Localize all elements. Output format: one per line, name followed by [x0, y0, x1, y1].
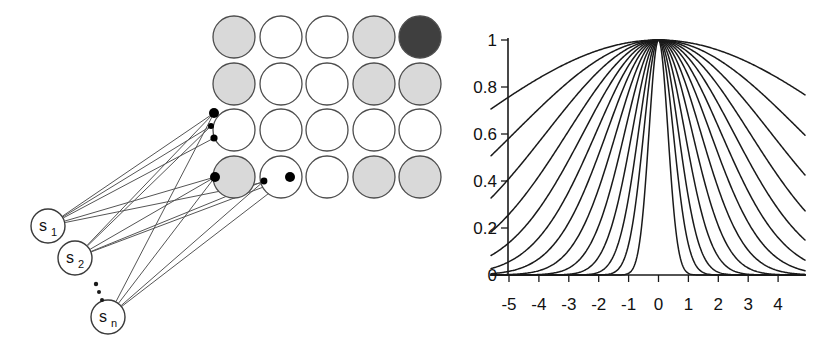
- unit-grid: [213, 16, 441, 198]
- y-tick-label: 0: [488, 266, 497, 285]
- grid-unit-r1c3[interactable]: [306, 16, 348, 58]
- y-tick-label: 0.8: [473, 78, 497, 97]
- grid-unit-r3c4[interactable]: [353, 109, 395, 151]
- connection-edge: [90, 177, 215, 249]
- connection-edges: [62, 113, 290, 306]
- grid-unit-r2c4[interactable]: [353, 63, 395, 105]
- network-diagram-panel: s1s2sn: [0, 0, 450, 347]
- ellipsis-dot: [97, 290, 101, 294]
- curve-series-group: [491, 40, 805, 275]
- grid-unit-r4c3[interactable]: [306, 156, 348, 198]
- connection-edge: [62, 113, 214, 216]
- grid-unit-r1c1[interactable]: [213, 16, 255, 58]
- y-tick-label: 1: [488, 31, 497, 50]
- network-diagram-svg: s1s2sn: [0, 0, 450, 347]
- gaussian-curves-chart: -5-4-3-2-10123400.20.40.60.81: [440, 0, 831, 347]
- source-node-label: s: [66, 249, 74, 266]
- x-tick-label: -4: [531, 295, 546, 314]
- terminal-r4c2-left[interactable]: [261, 178, 268, 185]
- grid-unit-r3c5[interactable]: [399, 109, 441, 151]
- connection-edge: [87, 113, 214, 245]
- grid-unit-r2c3[interactable]: [306, 63, 348, 105]
- source-node-sn[interactable]: sn: [91, 300, 125, 334]
- x-tick-label: 2: [714, 295, 723, 314]
- source-node-subscript: 2: [78, 258, 84, 270]
- source-node-circle: [31, 209, 65, 243]
- x-tick-label: -3: [561, 295, 576, 314]
- grid-unit-r3c2[interactable]: [260, 109, 302, 151]
- grid-unit-r3c3[interactable]: [306, 109, 348, 151]
- x-tick-label: -2: [591, 295, 606, 314]
- source-nodes: s1s2sn: [31, 209, 125, 334]
- source-node-s2[interactable]: s2: [58, 241, 92, 275]
- grid-unit-r3c1[interactable]: [213, 109, 255, 151]
- grid-unit-r2c5[interactable]: [399, 63, 441, 105]
- terminal-r3c1-low[interactable]: [210, 134, 217, 141]
- grid-unit-r4c5[interactable]: [399, 156, 441, 198]
- grid-unit-r1c4[interactable]: [353, 16, 395, 58]
- y-tick-label: 0.2: [473, 219, 497, 238]
- y-tick-label: 0.6: [473, 125, 497, 144]
- connection-edge: [91, 177, 290, 252]
- axes: [506, 38, 805, 275]
- curve-sigma-5.30: [491, 40, 805, 198]
- source-node-label: s: [39, 217, 47, 234]
- grid-unit-r4c2[interactable]: [260, 156, 302, 198]
- source-node-circle: [91, 300, 125, 334]
- grid-unit-r4c4[interactable]: [353, 156, 395, 198]
- grid-unit-r1c2[interactable]: [260, 16, 302, 58]
- vertical-ellipsis: [94, 282, 104, 302]
- x-tick-label: 1: [684, 295, 693, 314]
- grid-unit-r1c5[interactable]: [399, 16, 441, 58]
- source-node-subscript: n: [111, 317, 117, 329]
- y-tick-label: 0.4: [473, 172, 497, 191]
- terminal-r4c2-right[interactable]: [285, 172, 295, 182]
- connection-edge: [121, 181, 264, 306]
- connection-edge: [119, 177, 215, 303]
- grid-unit-r2c1[interactable]: [213, 63, 255, 105]
- terminal-r3c1-top[interactable]: [209, 108, 219, 118]
- terminal-r3c1-mid[interactable]: [208, 123, 214, 129]
- source-node-circle: [58, 241, 92, 275]
- source-node-s1[interactable]: s1: [31, 209, 65, 243]
- x-axis-ticks: -5-4-3-2-101234: [501, 275, 782, 314]
- x-tick-label: 0: [654, 295, 663, 314]
- connection-edge: [63, 138, 214, 218]
- ellipsis-dot: [100, 298, 104, 302]
- figure-container: s1s2sn -5-4-3-2-10123400.20.40.60.81: [0, 0, 831, 347]
- grid-unit-r2c2[interactable]: [260, 63, 302, 105]
- terminal-r4c1-left[interactable]: [210, 172, 220, 182]
- x-tick-label: -5: [501, 295, 516, 314]
- x-tick-label: 3: [743, 295, 752, 314]
- source-node-subscript: 1: [51, 226, 57, 238]
- gaussian-curves-panel: -5-4-3-2-10123400.20.40.60.81: [440, 0, 831, 347]
- source-node-label: s: [99, 308, 107, 325]
- curve-sigma-0.45: [491, 40, 805, 275]
- x-tick-label: -1: [621, 295, 636, 314]
- ellipsis-dot: [94, 282, 98, 286]
- x-tick-label: 4: [773, 295, 782, 314]
